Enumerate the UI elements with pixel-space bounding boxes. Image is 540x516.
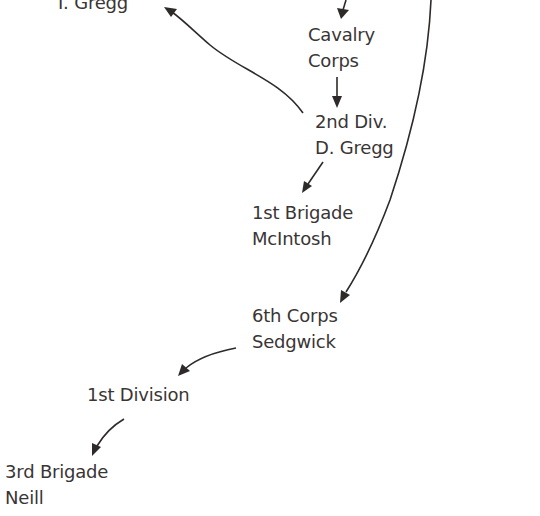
node-label: Neill bbox=[5, 485, 108, 511]
arrow-1st-division-to-3rd-brigade bbox=[92, 419, 124, 456]
node-cavalry-corps: Cavalry Corps bbox=[308, 22, 375, 74]
arrow-to-cavalry-corps bbox=[337, 0, 349, 19]
node-1st-division: 1st Division bbox=[87, 382, 190, 408]
node-6th-corps: 6th Corps Sedgwick bbox=[252, 303, 338, 355]
node-label: I. Gregg bbox=[58, 0, 128, 16]
hierarchy-diagram: I. Gregg Cavalry Corps 2nd Div. D. Gregg… bbox=[0, 0, 540, 516]
node-label: Sedgwick bbox=[252, 329, 338, 355]
arrow-2nd-div-to-1st-brigade bbox=[302, 162, 323, 193]
node-i-gregg: I. Gregg bbox=[58, 0, 128, 16]
connector-arrows bbox=[0, 0, 540, 516]
node-label: D. Gregg bbox=[315, 135, 394, 161]
arrow-2nd-div-to-i-gregg bbox=[164, 7, 303, 113]
node-1st-brigade: 1st Brigade McIntosh bbox=[252, 200, 353, 252]
node-label: McIntosh bbox=[252, 226, 353, 252]
node-3rd-brigade: 3rd Brigade Neill bbox=[5, 459, 108, 511]
arrow-cavalry-to-2nd-div bbox=[332, 77, 342, 108]
node-2nd-div: 2nd Div. D. Gregg bbox=[315, 109, 394, 161]
node-label: 3rd Brigade bbox=[5, 459, 108, 485]
node-label: Cavalry bbox=[308, 22, 375, 48]
node-label: 6th Corps bbox=[252, 303, 338, 329]
node-label: 1st Brigade bbox=[252, 200, 353, 226]
node-label: Corps bbox=[308, 48, 375, 74]
node-label: 2nd Div. bbox=[315, 109, 394, 135]
node-label: 1st Division bbox=[87, 382, 190, 408]
arrow-6th-corps-to-1st-division bbox=[178, 348, 236, 376]
